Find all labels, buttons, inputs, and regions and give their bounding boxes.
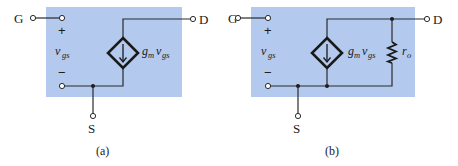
vgs-plus-a: +	[58, 23, 66, 38]
source-terminal-inner-a[interactable]	[59, 83, 64, 88]
source-terminal-outer-b[interactable]	[295, 113, 300, 118]
drain-terminal-a[interactable]	[190, 16, 195, 21]
gm-sub-a: m	[148, 50, 154, 60]
gate-terminal-inner-b[interactable]	[265, 15, 270, 20]
source-label-a: S	[88, 121, 95, 136]
panel-b: G + v gs − S D g m	[228, 7, 442, 158]
ro-subscript-b: o	[407, 50, 411, 60]
drain-label-b: D	[433, 12, 442, 27]
drain-terminal-b[interactable]	[424, 16, 429, 21]
small-signal-model-figure: G + v gs − S D g m v gs	[0, 0, 458, 166]
source-terminal-outer-a[interactable]	[90, 113, 95, 118]
gate-terminal-outer-a[interactable]	[30, 15, 35, 20]
gate-terminal-outer-b[interactable]	[235, 15, 240, 20]
vgs-plus-b: +	[264, 23, 272, 38]
gate-label-a: G	[14, 11, 23, 26]
vgs-symbol-b: v	[261, 44, 267, 58]
drain-label-a: D	[199, 12, 208, 27]
caption-a: (a)	[96, 144, 109, 158]
panel-a: G + v gs − S D g m v gs	[14, 7, 208, 158]
gm-sub-b: m	[354, 50, 360, 60]
model-box-b	[251, 7, 415, 97]
vgs-subscript-b: gs	[268, 50, 276, 60]
source-terminal-inner-b[interactable]	[265, 83, 270, 88]
gm-var-sub-a: gs	[162, 50, 170, 60]
source-label-b: S	[293, 121, 300, 136]
vgs-minus-a: −	[58, 65, 66, 80]
gm-var-sub-b: gs	[368, 50, 376, 60]
caption-b: (b)	[325, 144, 339, 158]
vgs-minus-b: −	[264, 65, 272, 80]
vgs-symbol-a: v	[55, 44, 61, 58]
gate-terminal-inner-a[interactable]	[59, 15, 64, 20]
vgs-subscript-a: gs	[62, 50, 70, 60]
